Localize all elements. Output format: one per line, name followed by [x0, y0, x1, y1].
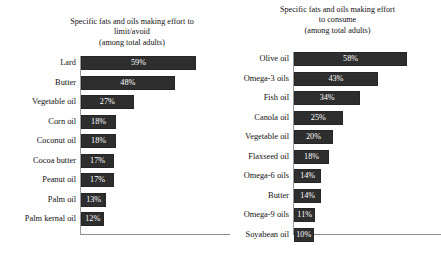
bar-value-label: 18%: [294, 150, 329, 164]
chart-title-line-1: Specific fats and oils making effort to: [34, 17, 230, 27]
bar-row: Soyabean oil10%: [230, 228, 441, 242]
category-label: Butter: [0, 76, 76, 90]
bar-value-label: 20%: [294, 130, 333, 144]
bar-value-label: 11%: [294, 208, 315, 222]
x-axis-line: [80, 234, 230, 235]
category-label: Olive oil: [230, 52, 289, 66]
category-label: Palm oil: [0, 193, 76, 207]
plot-area-limit-avoid: Lard59%Butter48%Vegetable oil27%Corn oil…: [0, 56, 230, 246]
chart-title-line-1: Specific fats and oils making effort: [238, 5, 437, 15]
bar-value-label: 59%: [81, 56, 196, 70]
chart-title-limit-avoid: Specific fats and oils making effort to …: [0, 17, 230, 48]
bar-value-label: 34%: [294, 91, 360, 105]
bar-row: Peanut oil17%: [0, 173, 230, 187]
bar-value-label: 18%: [81, 134, 116, 148]
bar-value-label: 58%: [294, 52, 407, 66]
bar-row: Coconut oil18%: [0, 134, 230, 148]
chart-title-line-2: limit/avoid: [34, 27, 230, 37]
category-label: Coconut oil: [0, 134, 76, 148]
category-label: Flaxseed oil: [230, 150, 289, 164]
bar-row: Butter48%: [0, 76, 230, 90]
bar-row: Cocoa butter17%: [0, 154, 230, 168]
bar-value-label: 27%: [81, 95, 134, 109]
bar-row: Omega-6 oils14%: [230, 169, 441, 183]
bar-row: Vegetable oil20%: [230, 130, 441, 144]
chart-title-consume: Specific fats and oils making effort to …: [230, 5, 441, 36]
category-label: Cocoa butter: [0, 154, 76, 168]
bar-row: Corn oil18%: [0, 115, 230, 129]
category-label: Peanut oil: [0, 173, 76, 187]
bar-value-label: 43%: [294, 72, 378, 86]
plot-area-consume: Olive oil58%Omega-3 oils43%Fish oil34%Ca…: [230, 52, 441, 246]
bar-value-label: 17%: [81, 154, 114, 168]
bar-value-label: 18%: [81, 115, 116, 129]
bar-value-label: 13%: [81, 193, 106, 207]
category-label: Palm kernal oil: [0, 212, 76, 226]
bar-row: Canola oil25%: [230, 111, 441, 125]
bar-value-label: 17%: [81, 173, 114, 187]
bar-value-label: 14%: [294, 189, 321, 203]
bar-row: Flaxseed oil18%: [230, 150, 441, 164]
bar-row: Palm kernal oil12%: [0, 212, 230, 226]
category-label: Corn oil: [0, 115, 76, 129]
category-label: Soyabean oil: [230, 228, 289, 242]
bar-row: Butter14%: [230, 189, 441, 203]
bar-value-label: 12%: [81, 212, 104, 226]
bar-row: Palm oil13%: [0, 193, 230, 207]
bar-row: Lard59%: [0, 56, 230, 70]
chart-panel-consume: Specific fats and oils making effort to …: [230, 0, 441, 264]
bar-row: Vegetable oil27%: [0, 95, 230, 109]
category-label: Vegetable oil: [0, 95, 76, 109]
category-label: Vegetable oil: [230, 130, 289, 144]
bar-row: Fish oil34%: [230, 91, 441, 105]
bar-row: Omega-9 oils11%: [230, 208, 441, 222]
bar-value-label: 10%: [294, 228, 314, 242]
category-label: Omega-9 oils: [230, 208, 289, 222]
chart-title-line-3: (among total adults): [238, 26, 437, 36]
bar-value-label: 14%: [294, 169, 321, 183]
category-label: Fish oil: [230, 91, 289, 105]
chart-title-line-2: to consume: [238, 15, 437, 25]
bar-row: Olive oil58%: [230, 52, 441, 66]
category-label: Omega-6 oils: [230, 169, 289, 183]
bar-value-label: 48%: [81, 76, 175, 90]
bar-value-label: 25%: [294, 111, 343, 125]
dual-bar-chart-figure: Specific fats and oils making effort to …: [0, 0, 441, 264]
category-label: Lard: [0, 56, 76, 70]
chart-title-line-3: (among total adults): [34, 38, 230, 48]
category-label: Omega-3 oils: [230, 72, 289, 86]
bar-row: Omega-3 oils43%: [230, 72, 441, 86]
category-label: Canola oil: [230, 111, 289, 125]
chart-panel-limit-avoid: Specific fats and oils making effort to …: [0, 0, 230, 264]
category-label: Butter: [230, 189, 289, 203]
